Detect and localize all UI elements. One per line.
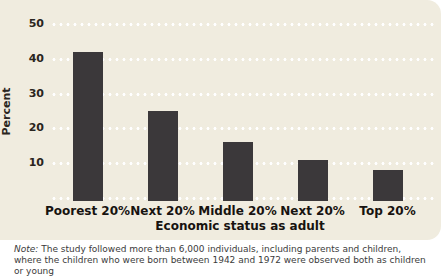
gridline-40 bbox=[52, 58, 435, 61]
note-label: Note: bbox=[14, 244, 38, 254]
y-tick-label-50: 50 bbox=[0, 17, 44, 31]
x-axis-title: Economic status as adult bbox=[50, 219, 430, 233]
y-tick-label-10: 10 bbox=[0, 156, 44, 170]
y-tick-label-40: 40 bbox=[0, 52, 44, 66]
gridline-20 bbox=[52, 127, 435, 130]
note-body: The study followed more than 6,000 indiv… bbox=[14, 244, 426, 276]
gridline-50 bbox=[52, 23, 435, 26]
x-category-label-4: Top 20% bbox=[333, 204, 441, 218]
chart-panel: Percent 1020304050Poorest 20%Next 20%Mid… bbox=[0, 0, 441, 240]
plot-area: 1020304050Poorest 20%Next 20%Middle 20%N… bbox=[0, 0, 441, 240]
bar-3 bbox=[298, 160, 328, 201]
note-text: Note: The study followed more than 6,000… bbox=[14, 244, 430, 277]
gridline-30 bbox=[52, 93, 435, 96]
y-tick-label-20: 20 bbox=[0, 121, 44, 135]
y-tick-label-30: 30 bbox=[0, 87, 44, 101]
bar-2 bbox=[223, 142, 253, 201]
bar-0 bbox=[73, 52, 103, 201]
bar-4 bbox=[373, 170, 403, 201]
bar-1 bbox=[148, 111, 178, 201]
